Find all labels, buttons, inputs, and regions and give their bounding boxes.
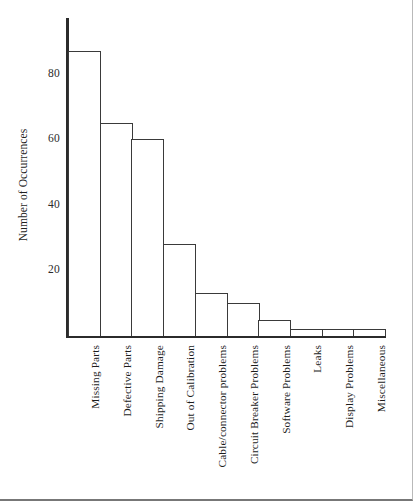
y-tick-label: 80: [26, 67, 60, 79]
category-label: Shipping Damage: [153, 345, 165, 429]
category-label: Leaks: [311, 345, 323, 373]
y-tick-80: 80: [26, 67, 60, 81]
category-label: Cable/connector problems: [216, 345, 228, 468]
y-axis-title: Number of Occurrences: [17, 105, 29, 265]
bar: [100, 123, 133, 336]
bar: [258, 320, 291, 336]
chart-page: Number of Occurrences 20406080 Missing P…: [0, 0, 413, 501]
bar: [353, 329, 386, 336]
bar: [163, 244, 196, 336]
y-tick-40: 40: [26, 198, 60, 212]
bar: [322, 329, 355, 336]
y-tick-label: 60: [26, 132, 60, 144]
bar: [290, 329, 323, 336]
category-label: Missing Parts: [89, 345, 101, 409]
y-tick-60: 60: [26, 132, 60, 146]
bar: [131, 139, 164, 336]
category-label: Out of Calibration: [184, 345, 196, 431]
category-label: Display Problems: [343, 345, 355, 428]
category-label: Defective Parts: [121, 345, 133, 417]
bar: [227, 303, 260, 336]
y-tick-20: 20: [26, 263, 60, 277]
bar: [195, 293, 228, 336]
category-label: Miscellaneous: [375, 345, 387, 412]
category-label: Software Problems: [280, 345, 292, 434]
pareto-chart: Number of Occurrences 20406080 Missing P…: [0, 0, 413, 501]
y-tick-label: 40: [26, 198, 60, 210]
bar: [68, 51, 101, 336]
category-label: Circuit Breaker Problems: [248, 345, 260, 464]
y-tick-label: 20: [26, 263, 60, 275]
